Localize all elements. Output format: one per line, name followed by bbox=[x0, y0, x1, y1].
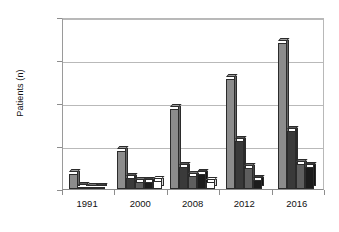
bar-face-2012-1 bbox=[226, 79, 235, 189]
bar-2016-4 bbox=[305, 17, 314, 189]
bar-face-2012-3 bbox=[244, 168, 253, 189]
bar-face-2008-5 bbox=[206, 182, 215, 189]
bar-2008-5 bbox=[206, 17, 215, 189]
x-tick-mark-2012 bbox=[219, 190, 220, 195]
bar-1991-1 bbox=[69, 17, 78, 189]
bar-2008-3 bbox=[188, 17, 197, 189]
bar-face-1991-4 bbox=[96, 187, 105, 189]
x-tick-mark-2000 bbox=[114, 190, 115, 195]
bar-face-1991-1 bbox=[69, 174, 78, 189]
bar-2000-4 bbox=[144, 17, 153, 189]
bar-face-2008-2 bbox=[179, 167, 188, 189]
bar-face-2016-2 bbox=[287, 131, 296, 189]
bar-2000-3 bbox=[135, 17, 144, 189]
x-tick-mark-end bbox=[324, 190, 325, 195]
x-tick-label-2000: 2000 bbox=[130, 198, 151, 209]
bar-2016-2 bbox=[287, 17, 296, 189]
bar-face-2012-4 bbox=[253, 180, 262, 189]
bar-face-2016-3 bbox=[296, 164, 305, 189]
bar-2016-1 bbox=[278, 17, 287, 189]
bar-2012-3 bbox=[244, 17, 253, 189]
x-tick-label-2012: 2012 bbox=[234, 198, 255, 209]
bar-2000-5 bbox=[153, 17, 162, 189]
bar-2012-1 bbox=[226, 17, 235, 189]
plot-area bbox=[62, 18, 324, 190]
bar-2008-2 bbox=[179, 17, 188, 189]
bar-group-1991 bbox=[69, 19, 108, 189]
bar-1991-4 bbox=[96, 17, 105, 189]
bar-2012-2 bbox=[235, 17, 244, 189]
bar-face-2000-4 bbox=[144, 182, 153, 189]
bar-2012-4 bbox=[253, 17, 262, 189]
bar-face-2000-3 bbox=[135, 182, 144, 189]
x-tick-label-2008: 2008 bbox=[182, 198, 203, 209]
bar-2016-3 bbox=[296, 17, 305, 189]
bar-face-2008-3 bbox=[188, 176, 197, 189]
y-axis-title: Patients (n) bbox=[15, 43, 25, 143]
bar-group-2016 bbox=[278, 19, 317, 189]
bar-face-1991-2 bbox=[78, 187, 87, 189]
bar-1991-3 bbox=[87, 17, 96, 189]
x-tick-mark-1991 bbox=[62, 190, 63, 195]
bar-2000-1 bbox=[117, 17, 126, 189]
bar-face-2008-1 bbox=[170, 109, 179, 189]
x-tick-label-2016: 2016 bbox=[286, 198, 307, 209]
bar-face-2016-1 bbox=[278, 43, 287, 189]
bar-face-2000-5 bbox=[153, 181, 162, 189]
x-tick-label-1991: 1991 bbox=[77, 198, 98, 209]
bar-face-2000-1 bbox=[117, 151, 126, 189]
bar-chart: Patients (n) 0500100015002000 1991200020… bbox=[0, 0, 339, 232]
bar-group-2012 bbox=[226, 19, 265, 189]
bar-top-2012-4 bbox=[253, 175, 265, 178]
bar-group-2008 bbox=[170, 19, 218, 189]
bar-face-2016-4 bbox=[305, 167, 314, 189]
bar-face-2012-2 bbox=[235, 141, 244, 189]
bar-2008-4 bbox=[197, 17, 206, 189]
bar-1991-2 bbox=[78, 17, 87, 189]
bar-face-2008-4 bbox=[197, 174, 206, 189]
bar-face-1991-3 bbox=[87, 187, 96, 189]
bar-2008-1 bbox=[170, 17, 179, 189]
bar-group-2000 bbox=[117, 19, 165, 189]
bar-top-1991-4 bbox=[96, 183, 108, 186]
x-tick-mark-2008 bbox=[167, 190, 168, 195]
bar-2000-2 bbox=[126, 17, 135, 189]
x-tick-mark-2016 bbox=[272, 190, 273, 195]
x-axis: 19912000200820122016 bbox=[62, 190, 324, 214]
